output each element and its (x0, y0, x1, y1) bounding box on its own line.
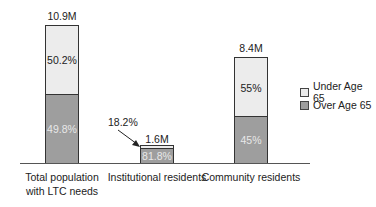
bar-segment-under-65: 55% (234, 57, 268, 117)
category-label-line: Total population (12, 170, 112, 184)
legend-swatch-icon (300, 88, 309, 97)
legend-label: Over Age 65 (313, 99, 371, 111)
bar-segment-over-65: 49.8% (45, 94, 79, 164)
legend-item-over-65: Over Age 65 (300, 99, 371, 111)
category-label-line: with LTC needs (12, 184, 112, 198)
segment-percent-label: 50.2% (46, 54, 78, 66)
segment-percent-label: 81.8% (141, 150, 173, 162)
segment-percent-label: 55% (235, 82, 267, 94)
bar-total-label: 10.9M (32, 10, 92, 22)
annotation-arrow-icon (115, 128, 145, 150)
bar-segment-over-65: 81.8% (140, 148, 174, 164)
category-label: Total population with LTC needs (12, 170, 112, 198)
category-label: Community residents (196, 170, 306, 184)
legend-swatch-icon (300, 101, 309, 110)
bar-total-label: 8.4M (221, 42, 281, 54)
bar-segment-over-65: 45% (234, 116, 268, 164)
x-axis-baseline (20, 163, 310, 164)
segment-percent-label: 49.8% (46, 123, 78, 135)
annotation-label: 18.2% (108, 116, 138, 128)
segment-percent-label: 45% (235, 134, 267, 146)
bar-segment-under-65: 50.2% (45, 25, 79, 95)
